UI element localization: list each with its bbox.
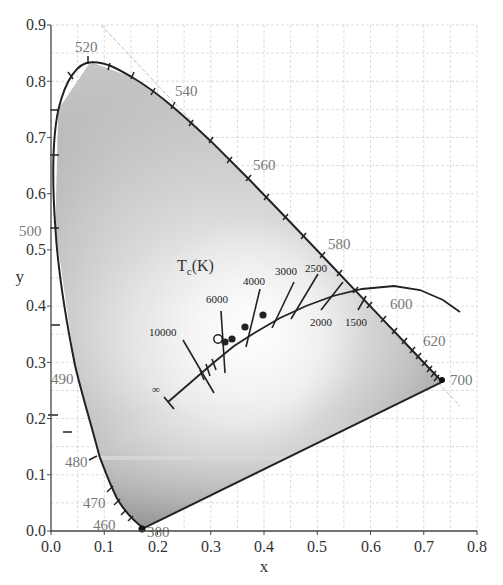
- x-tick-labels: 0.0 0.1 0.2 0.3 0.4 0.5 0.6 0.7 0.8 x: [41, 538, 487, 576]
- y-tick-3: 0.3: [26, 354, 46, 371]
- y-tick-9: 0.9: [26, 16, 46, 33]
- ct-label-4000: 4000: [243, 275, 266, 287]
- ct-label-6000: 6000: [206, 293, 229, 305]
- cie-chromaticity-chart: 520 540 560 580 600 620 700 500 490 480 …: [0, 0, 503, 585]
- ct-label-2500: 2500: [305, 262, 328, 274]
- wl-label-500: 500: [19, 223, 42, 239]
- y-tick-8: 0.8: [26, 73, 46, 90]
- ct-label-2000: 2000: [310, 316, 333, 328]
- y-tick-labels: 0.0 0.1 0.2 0.3 0.4 0.5 0.6 0.7 0.8 0.9 …: [16, 16, 47, 539]
- x-tick-8: 0.8: [467, 538, 487, 555]
- filled-circle-marker: [241, 323, 248, 330]
- filled-circle-marker: [228, 335, 235, 342]
- ct-label-10000: 10000: [149, 326, 177, 338]
- x-tick-7: 0.7: [414, 538, 434, 555]
- wl-label-620: 620: [423, 333, 446, 349]
- filled-circle-marker: [259, 311, 266, 318]
- wl-label-700: 700: [450, 372, 473, 388]
- wl-label-540: 540: [175, 83, 198, 99]
- wl-label-480: 480: [65, 454, 88, 470]
- y-tick-7: 0.7: [26, 129, 46, 146]
- wl-label-560: 560: [253, 157, 276, 173]
- x-tick-3: 0.3: [201, 538, 221, 555]
- ct-label-3000: 3000: [275, 265, 298, 277]
- x-tick-5: 0.5: [307, 538, 327, 555]
- endpoint-700-marker: [439, 377, 445, 383]
- wl-label-520: 520: [75, 39, 98, 55]
- wl-label-600: 600: [390, 296, 413, 312]
- infinity-label: ∞: [152, 383, 160, 395]
- y-tick-1: 0.1: [26, 466, 46, 483]
- filled-circle-marker: [221, 338, 228, 345]
- y-axis-label: y: [16, 267, 25, 286]
- wl-label-580: 580: [328, 236, 351, 252]
- wl-label-490: 490: [51, 371, 74, 387]
- y-tick-6: 0.6: [26, 185, 46, 202]
- y-tick-2: 0.2: [26, 410, 46, 427]
- x-tick-1: 0.1: [94, 538, 114, 555]
- x-axis-label: x: [260, 557, 269, 576]
- ct-label-1500: 1500: [345, 316, 368, 328]
- wl-label-470: 470: [83, 495, 106, 511]
- x-tick-2: 0.2: [148, 538, 168, 555]
- x-tick-0: 0.0: [41, 538, 61, 555]
- y-tick-4: 0.4: [26, 297, 46, 314]
- open-circle-marker: [214, 335, 222, 343]
- x-tick-6: 0.6: [361, 538, 381, 555]
- x-tick-4: 0.4: [254, 538, 274, 555]
- y-tick-5: 0.5: [26, 241, 46, 258]
- y-tick-0: 0.0: [26, 522, 46, 539]
